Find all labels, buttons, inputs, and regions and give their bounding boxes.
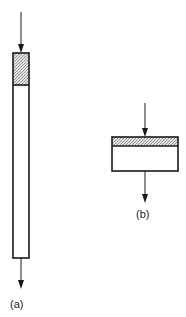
panel-b-bed [112, 103, 178, 203]
panel-a-label: (a) [10, 298, 23, 310]
shaded-section-a [13, 53, 29, 85]
panel-a-column [13, 12, 29, 289]
arrowhead-icon [18, 44, 24, 53]
arrowhead-icon [142, 128, 148, 137]
panel-b-label: (b) [136, 208, 149, 220]
arrowhead-icon [142, 194, 148, 203]
shaded-section-b [112, 137, 178, 146]
arrowhead-icon [18, 280, 24, 289]
diagram-canvas [0, 0, 186, 317]
